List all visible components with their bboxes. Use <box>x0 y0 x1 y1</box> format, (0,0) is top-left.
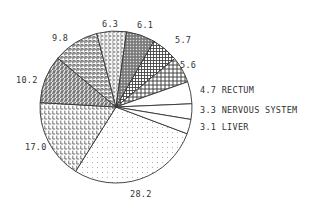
pie-slices <box>40 31 192 183</box>
slice-label: 3.3 NERVOUS SYSTEM <box>200 105 298 115</box>
pie-chart: 28.217.010.29.86.36.15.75.64.7 RECTUM3.3… <box>0 0 323 211</box>
slice-label: 10.2 <box>16 75 38 85</box>
slice-label: 3.1 LIVER <box>200 122 249 132</box>
slice-label: 5.7 <box>175 35 191 45</box>
slice-label: 28.2 <box>130 189 152 199</box>
slice-label: 6.1 <box>137 20 153 30</box>
slice-label: 17.0 <box>25 142 47 152</box>
slice-label: 6.3 <box>102 19 118 29</box>
slice-label: 5.6 <box>180 60 196 70</box>
slice-label: 4.7 RECTUM <box>200 85 254 95</box>
slice-label: 9.8 <box>52 33 68 43</box>
